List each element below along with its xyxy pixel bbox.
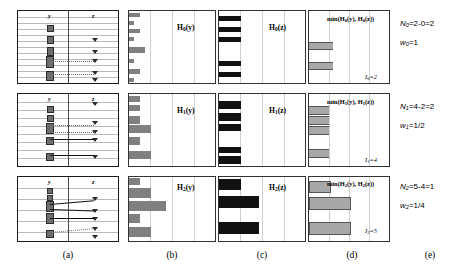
hist-bar bbox=[219, 113, 241, 121]
equation-N-level-0: N0=2-0=2 bbox=[400, 19, 434, 28]
correspondence-panel-level-1: y z bbox=[17, 93, 119, 167]
caption-a: (a) bbox=[38, 250, 98, 260]
hist-bar bbox=[129, 96, 140, 102]
corr-z-node bbox=[92, 102, 98, 106]
histogram-label-hy-level-1: H1(y) bbox=[177, 106, 194, 115]
histogram-label-min-level-2: min(H2(y), H2(z)) bbox=[327, 180, 374, 188]
hist-bar bbox=[219, 72, 241, 77]
pyramid-match-figure: y z H0(y) H bbox=[0, 0, 465, 272]
hist-bar bbox=[309, 197, 351, 210]
hist-bar bbox=[129, 188, 151, 198]
equation-w-level-1: w1=1/2 bbox=[400, 121, 425, 130]
corr-z-node bbox=[92, 78, 98, 82]
hist-bar bbox=[219, 16, 241, 21]
corr-link bbox=[52, 132, 94, 133]
corr-z-node bbox=[92, 50, 98, 54]
histogram-min-level-1: min(H1(y), H1(z)) I1=4 bbox=[308, 93, 390, 167]
histogram-label-hz-level-2: H2(z) bbox=[269, 183, 286, 192]
hist-bar bbox=[129, 214, 140, 223]
histogram-label-hy-level-0: H0(y) bbox=[177, 23, 194, 32]
correspondence-panel-level-0: y z bbox=[17, 10, 119, 84]
hist-bar bbox=[309, 149, 329, 158]
histogram-hz-level-0: H0(z) bbox=[218, 10, 306, 84]
corr-y-node bbox=[47, 106, 54, 113]
corr-link bbox=[52, 74, 94, 75]
corr-link bbox=[50, 139, 94, 140]
hist-bar bbox=[219, 61, 241, 66]
intersection-value-level-0: I0=2 bbox=[365, 73, 377, 81]
hist-bar bbox=[219, 124, 241, 131]
caption-b: (b) bbox=[142, 250, 202, 260]
histogram-label-hy-level-2: H2(y) bbox=[177, 183, 194, 192]
hist-bar bbox=[129, 29, 140, 33]
hist-bar bbox=[129, 69, 140, 74]
hist-bar bbox=[309, 126, 329, 135]
hist-bar bbox=[129, 151, 151, 159]
corr-y-node bbox=[47, 188, 53, 194]
histogram-label-hz-level-0: H0(z) bbox=[269, 23, 286, 32]
corr-link bbox=[50, 218, 94, 219]
histogram-hy-level-0: H0(y) bbox=[128, 10, 216, 84]
corr-z-node bbox=[92, 235, 98, 239]
corr-y-node bbox=[46, 56, 54, 68]
hist-bar bbox=[219, 37, 241, 42]
hist-bar bbox=[129, 116, 140, 124]
hist-bar bbox=[309, 116, 329, 125]
caption-e: (e) bbox=[400, 250, 460, 260]
corr-y-node bbox=[46, 71, 54, 81]
equation-N-level-2: N2=5-4=1 bbox=[400, 182, 434, 191]
intersection-value-level-1: I1=4 bbox=[365, 156, 377, 164]
caption-c: (c) bbox=[232, 250, 292, 260]
hist-bar bbox=[129, 137, 140, 145]
hist-bar bbox=[309, 62, 333, 70]
corr-link bbox=[52, 61, 94, 62]
hist-bar bbox=[219, 196, 259, 208]
hist-bar bbox=[219, 27, 241, 32]
histogram-label-min-level-1: min(H1(y), H1(z)) bbox=[327, 98, 374, 106]
histogram-label-min-level-0: min(H0(y), H0(z)) bbox=[327, 15, 374, 23]
hist-bar bbox=[129, 59, 134, 63]
hist-bar bbox=[129, 47, 145, 53]
histogram-hy-level-2: H2(y) bbox=[128, 176, 216, 242]
hist-bar bbox=[129, 21, 134, 25]
corr-y-node bbox=[47, 36, 54, 44]
corr-z-header-level-2: z bbox=[92, 179, 94, 185]
corr-z-header-level-0: z bbox=[92, 13, 94, 19]
histogram-hz-level-2: H2(z) bbox=[218, 176, 306, 242]
hist-bar bbox=[129, 125, 151, 133]
hist-bar bbox=[219, 222, 259, 234]
hist-bar bbox=[129, 201, 166, 211]
hist-bar bbox=[129, 13, 140, 17]
corr-link bbox=[52, 125, 94, 126]
corr-y-header-level-0: y bbox=[48, 13, 51, 19]
corr-y-node bbox=[47, 25, 54, 32]
hist-bar bbox=[129, 178, 140, 185]
corr-y-node bbox=[47, 115, 54, 122]
corr-z-node bbox=[92, 38, 98, 42]
corr-y-header-level-2: y bbox=[48, 179, 51, 185]
hist-bar bbox=[129, 105, 140, 111]
equation-N-level-1: N1=4-2=2 bbox=[400, 102, 434, 111]
histogram-hz-level-1: H1(z) bbox=[218, 93, 306, 167]
hist-bar bbox=[219, 156, 241, 164]
hist-bar bbox=[129, 78, 134, 82]
histogram-label-hz-level-1: H1(z) bbox=[269, 106, 286, 115]
hist-bar bbox=[219, 101, 241, 109]
hist-bar bbox=[129, 227, 151, 237]
hist-bar bbox=[219, 179, 241, 190]
hist-bar bbox=[309, 42, 333, 50]
hist-bar bbox=[309, 106, 329, 115]
histogram-min-level-0: min(H0(y), H0(z)) I0=2 bbox=[308, 10, 390, 84]
hist-bar bbox=[219, 147, 241, 153]
corr-link bbox=[50, 155, 94, 156]
histogram-hy-level-1: H1(y) bbox=[128, 93, 216, 167]
histogram-min-level-2: min(H2(y), H2(z)) I2=5 bbox=[308, 176, 390, 242]
caption-d: (d) bbox=[322, 250, 382, 260]
intersection-value-level-2: I2=5 bbox=[365, 227, 377, 235]
correspondence-panel-level-2: y z bbox=[17, 176, 119, 242]
equation-w-level-0: w0=1 bbox=[400, 38, 418, 47]
hist-bar bbox=[309, 222, 351, 235]
equation-w-level-2: w2=1/4 bbox=[400, 201, 425, 210]
hist-bar bbox=[129, 37, 134, 41]
corr-y-header-level-1: y bbox=[48, 96, 51, 102]
